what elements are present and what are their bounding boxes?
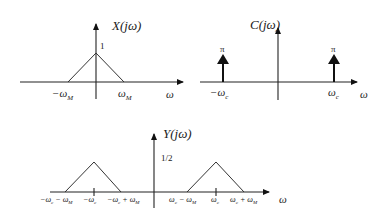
c-impulse-neg-label: π <box>220 44 225 54</box>
y-label-neg-wc-plus-wm: −ωc + ωM <box>107 195 140 205</box>
y-axis-omega-label: ω <box>279 193 287 205</box>
panel-c-spectrum: π π C(jω) −ωc ωc ω <box>200 17 368 101</box>
y-title: Y(jω) <box>163 126 192 141</box>
x-title: X(jω) <box>111 18 141 33</box>
y-label-wc-plus-wm: ωc + ωM <box>230 195 258 205</box>
c-impulse-neg-arrow-icon <box>217 54 229 64</box>
y-label-neg-wc: −ωc <box>83 195 97 205</box>
c-axis-omega-label: ω <box>360 88 368 100</box>
c-tick-neg-wc: −ωc <box>210 86 229 101</box>
y-label-wc-minus-wm: ωc − ωM <box>169 195 197 205</box>
modulation-spectra-diagram: X(jω) 1 −ωM ωM ω π π C(jω) −ωc ωc ω Y(jω… <box>0 0 385 218</box>
y-right-triangle <box>187 162 244 192</box>
y-peak-label: 1/2 <box>161 153 173 163</box>
c-tick-wc: ωc <box>328 86 340 101</box>
y-left-triangle <box>65 162 121 192</box>
x-axis-omega-label: ω <box>166 88 174 100</box>
panel-y-spectrum: Y(jω) 1/2 −ωc − ωM −ωc −ωc + ωM ωc − ωM … <box>40 126 287 208</box>
x-tick-neg-wm: −ωM <box>52 87 74 102</box>
x-peak-label: 1 <box>100 41 105 51</box>
c-impulse-pos-label: π <box>331 44 336 54</box>
y-label-neg-wc-minus-wm: −ωc − ωM <box>40 195 73 205</box>
panel-x-spectrum: X(jω) 1 −ωM ωM ω <box>20 18 183 102</box>
x-tick-wm: ωM <box>118 87 133 102</box>
y-label-wc: ωc <box>211 195 220 205</box>
c-impulse-pos-arrow-icon <box>328 54 340 64</box>
c-title: C(jω) <box>250 17 280 32</box>
